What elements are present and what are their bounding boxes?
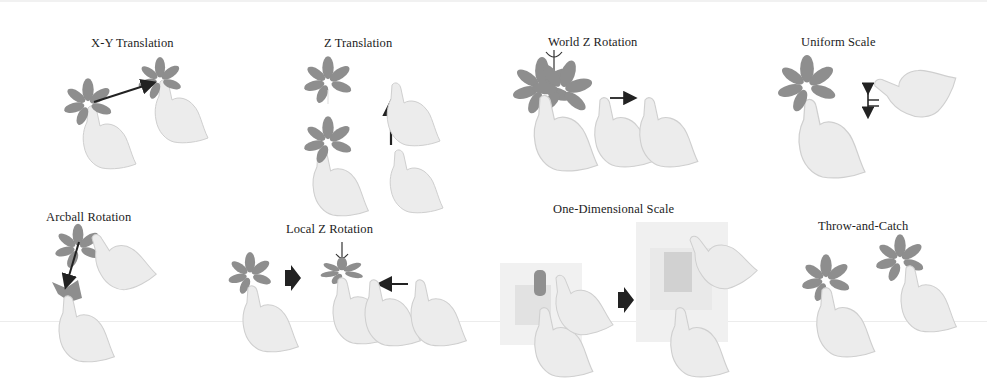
- panel-z-translation: [250, 0, 500, 210]
- flower-front-icon: [524, 50, 601, 126]
- hand-pinch-icon: [870, 41, 960, 128]
- hand-left-icon: [83, 106, 136, 169]
- panel-one-dimensional-scale: [480, 190, 780, 381]
- panel-world-z-rotation: [490, 0, 740, 190]
- hand-right-icon: [155, 80, 208, 143]
- hand-right-b-icon: [411, 280, 466, 346]
- hand-left-icon: [243, 286, 298, 352]
- hand-lower-icon: [59, 296, 114, 362]
- panel-uniform-scale: [737, 0, 987, 190]
- block-arrow-icon: [285, 265, 301, 291]
- flower-right-icon: [875, 234, 925, 282]
- hand-left-icon: [534, 96, 597, 171]
- panel-throw-and-catch: [770, 190, 987, 381]
- hand-upper-icon: [87, 220, 158, 297]
- block-arrow-icon: [618, 287, 634, 313]
- hand-two-finger-b-icon: [640, 98, 698, 167]
- hand-upper-right-icon: [387, 83, 440, 146]
- panel-arcball-rotation: [0, 190, 200, 381]
- panel-local-z-rotation: [190, 200, 480, 381]
- hand-left-icon: [817, 288, 875, 357]
- hand-left-icon: [799, 99, 865, 178]
- hand-right-icon: [901, 266, 956, 332]
- panel-xy-translation: [0, 0, 240, 190]
